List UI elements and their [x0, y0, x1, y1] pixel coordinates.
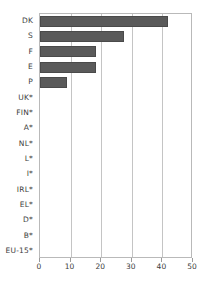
x-axis-tick-label: 10 — [65, 262, 75, 271]
y-axis-tick-label: UK* — [0, 90, 36, 105]
y-axis-labels: DK S F E P UK* FIN* A* NL* L* I* IRL* EL… — [0, 13, 36, 258]
bar-row — [40, 151, 191, 166]
y-axis-tick-label: EU-15* — [0, 243, 36, 258]
y-axis-tick-label: A* — [0, 120, 36, 135]
plot-area — [39, 13, 192, 258]
bar — [40, 16, 168, 27]
y-axis-tick-label: D* — [0, 212, 36, 227]
bar — [40, 31, 124, 42]
bar-row — [40, 105, 191, 120]
x-axis-tick-label: 20 — [95, 262, 105, 271]
bar-row — [40, 166, 191, 181]
bar-row — [40, 60, 191, 75]
y-axis-tick-label: B* — [0, 227, 36, 242]
bar-row — [40, 75, 191, 90]
bar-rows — [40, 14, 191, 257]
bar-row — [40, 196, 191, 211]
x-axis-labels: 01020304050 — [39, 262, 192, 276]
bar-row — [40, 242, 191, 257]
bar — [40, 62, 96, 73]
bar-row — [40, 181, 191, 196]
x-axis-tick-label: 40 — [157, 262, 167, 271]
bar — [40, 46, 96, 57]
x-axis-tick-label: 30 — [126, 262, 136, 271]
y-axis-tick-label: P — [0, 74, 36, 89]
y-axis-tick-label: FIN* — [0, 105, 36, 120]
bar-row — [40, 29, 191, 44]
x-axis-tick-label: 0 — [37, 262, 42, 271]
y-axis-tick-label: IRL* — [0, 181, 36, 196]
x-axis-tick-label: 50 — [187, 262, 197, 271]
y-axis-tick-label: EL* — [0, 197, 36, 212]
y-axis-tick-label: L* — [0, 151, 36, 166]
bar — [40, 77, 67, 88]
bar-row — [40, 90, 191, 105]
y-axis-tick-label: NL* — [0, 136, 36, 151]
bar-row — [40, 211, 191, 226]
y-axis-tick-label: DK — [0, 13, 36, 28]
bar-row — [40, 120, 191, 135]
bar-row — [40, 14, 191, 29]
bar-chart: DK S F E P UK* FIN* A* NL* L* I* IRL* EL… — [0, 0, 202, 287]
bar-row — [40, 227, 191, 242]
y-axis-tick-label: F — [0, 44, 36, 59]
y-axis-tick-label: S — [0, 28, 36, 43]
y-axis-tick-label: I* — [0, 166, 36, 181]
bar-row — [40, 136, 191, 151]
y-axis-tick-label: E — [0, 59, 36, 74]
bar-row — [40, 44, 191, 59]
